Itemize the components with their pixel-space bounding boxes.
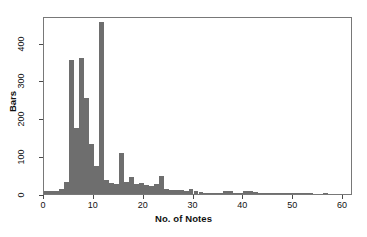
x-axis-tick-label: 30 [181,200,205,211]
x-axis-tick [193,195,194,199]
x-axis-tick [292,195,293,199]
y-axis-tick-label: 400 [16,31,26,57]
y-axis-tick [39,81,43,82]
y-axis-tick-label: 0 [16,182,26,208]
x-axis-tick-label: 10 [81,200,105,211]
y-axis-tick-label: 200 [16,106,26,132]
plot-frame [43,17,352,195]
x-axis-tick-label: 20 [131,200,155,211]
histogram-bar [323,193,328,194]
plot-area [44,18,351,194]
x-axis-tick-label: 0 [31,200,55,211]
x-axis-tick-label: 50 [280,200,304,211]
x-axis-tick-label: 40 [230,200,254,211]
histogram-bar [99,22,104,194]
x-axis-tick-label: 60 [330,200,354,211]
y-axis-tick-label: 100 [16,144,26,170]
y-axis-label: Bars [7,77,18,127]
histogram-screenshot: 0102030405060 0100200300400 No. of Notes… [0,0,367,237]
y-axis-tick [39,119,43,120]
x-axis-tick [242,195,243,199]
x-axis-tick [342,195,343,199]
x-axis-tick [43,195,44,199]
histogram-bar [308,193,313,194]
y-axis-tick [39,44,43,45]
x-axis-label: No. of Notes [0,213,367,224]
x-axis-tick [143,195,144,199]
y-axis-tick [39,157,43,158]
y-axis-tick [39,195,43,196]
x-axis-tick [93,195,94,199]
y-axis-tick-label: 300 [16,68,26,94]
